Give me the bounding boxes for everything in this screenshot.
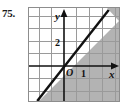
y-tick-label-2: 2: [55, 37, 60, 48]
shaded-region-upper-right: [107, 8, 119, 21]
problem-number-label: 75.: [2, 7, 15, 19]
y-axis-arrow: [61, 9, 68, 17]
figure-container: 75.: [0, 0, 123, 106]
x-tick-label-1: 1: [81, 68, 86, 79]
graph-svg: y x O 1 2: [29, 8, 119, 101]
y-axis-label: y: [53, 10, 60, 22]
origin-label: O: [66, 67, 73, 78]
x-axis-label: x: [108, 68, 115, 80]
coordinate-graph: y x O 1 2: [28, 7, 120, 102]
